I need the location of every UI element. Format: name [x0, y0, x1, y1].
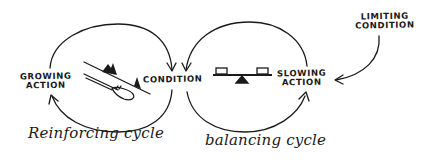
limiting-arrow [336, 36, 379, 80]
balancing-cycle-caption: balancing cycle [205, 131, 326, 149]
balance-scale-icon [213, 68, 272, 83]
balancing-arc-bottom [187, 92, 305, 132]
condition-text: CONDITION [143, 74, 203, 84]
limiting-condition-label: LIMITING CONDITION [355, 11, 415, 30]
snowball-rolling-downhill-icon [84, 62, 150, 100]
reinforcing-cycle-caption: Reinforcing cycle [28, 124, 164, 142]
slowing-action-line2: ACTION [277, 78, 326, 88]
balancing-arc-top [186, 22, 307, 70]
growing-action-line2: ACTION [20, 81, 72, 91]
limiting-condition-line2: CONDITION [355, 20, 415, 30]
condition-label: CONDITION [143, 74, 203, 84]
reinforcing-arc-top [50, 24, 172, 70]
slowing-action-label: SLOWING ACTION [277, 69, 327, 88]
growing-action-label: GROWING ACTION [20, 72, 72, 91]
